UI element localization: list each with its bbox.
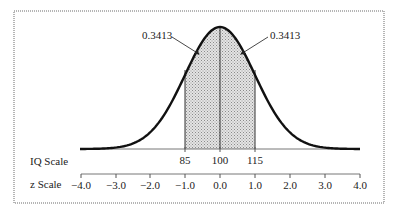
- z-tick-4: 4.0: [353, 179, 367, 191]
- normal-distribution-figure: 0.3413 0.3413 IQ Scale 85 100 115 z Scal…: [0, 0, 397, 217]
- iq-scale-label: IQ Scale: [30, 155, 68, 167]
- z-tick-2: 2.0: [283, 179, 297, 191]
- z-tick-neg2: −2.0: [140, 179, 160, 191]
- z-tick-neg3: −3.0: [106, 179, 126, 191]
- z-ticks: −4.0 −3.0 −2.0 −1.0 0.0 1.0 2.0 3.0 4.0: [71, 174, 367, 191]
- z-scale-label: z Scale: [30, 178, 62, 190]
- left-annotation-arrow: [172, 37, 199, 54]
- iq-ticks: 85 100 115: [180, 147, 264, 166]
- z-tick-3: 3.0: [318, 179, 332, 191]
- iq-tick-115: 115: [247, 154, 264, 166]
- figure-svg: 0.3413 0.3413 IQ Scale 85 100 115 z Scal…: [0, 0, 397, 217]
- z-tick-neg4: −4.0: [71, 179, 91, 191]
- z-tick-1: 1.0: [248, 179, 262, 191]
- z-tick-neg1: −1.0: [175, 179, 195, 191]
- z-tick-0: 0.0: [213, 179, 227, 191]
- iq-tick-85: 85: [180, 154, 192, 166]
- iq-tick-100: 100: [212, 154, 229, 166]
- left-area-label: 0.3413: [142, 29, 173, 41]
- right-area-label: 0.3413: [270, 29, 301, 41]
- right-annotation-arrow: [241, 37, 268, 54]
